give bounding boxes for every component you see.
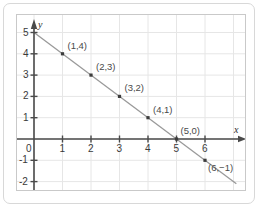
figure-card: y x 0 123456 12345-1-2 (1,4)(2,3)(3,2)(4… — [3, 3, 255, 204]
point-label-2: (3,2) — [125, 83, 145, 93]
y-tick-label-5: 5 — [23, 28, 29, 38]
x-tick-label-1: 1 — [60, 144, 66, 154]
horizontal-gridlines — [17, 33, 246, 182]
point-label-5: (6,−1) — [208, 163, 233, 173]
y-tick-label-3: 3 — [23, 70, 29, 80]
x-tick-label-5: 5 — [174, 144, 180, 154]
x-tick-label-6: 6 — [202, 144, 208, 154]
x-tick-label-4: 4 — [145, 144, 151, 154]
origin-tick-label: 0 — [26, 144, 32, 154]
y-tick-label-neg2: -2 — [19, 177, 28, 187]
coordinate-plane: y x 0 123456 12345-1-2 (1,4)(2,3)(3,2)(4… — [17, 15, 245, 190]
plot-frame: y x 0 123456 12345-1-2 (1,4)(2,3)(3,2)(4… — [16, 14, 246, 191]
point-label-4: (5,0) — [181, 126, 201, 136]
point-label-1: (2,3) — [96, 62, 116, 72]
x-tick-label-3: 3 — [117, 144, 123, 154]
point-label-0: (1,4) — [68, 41, 88, 51]
y-axis-label: y — [38, 20, 42, 30]
y-tick-label-1: 1 — [23, 113, 29, 123]
axis-ticks — [31, 33, 206, 182]
vertical-gridlines — [34, 15, 234, 191]
x-tick-label-2: 2 — [88, 144, 94, 154]
y-tick-label-2: 2 — [23, 91, 29, 101]
point-label-3: (4,1) — [153, 105, 173, 115]
x-axis-label: x — [234, 125, 238, 135]
y-tick-label-neg1: -1 — [19, 155, 28, 165]
y-tick-label-4: 4 — [23, 49, 29, 59]
